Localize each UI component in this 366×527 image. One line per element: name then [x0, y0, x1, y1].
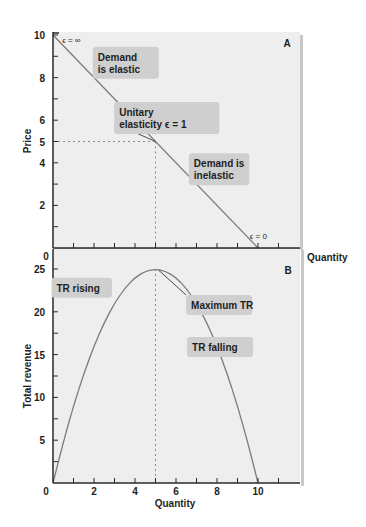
x-tick-label: 6 — [173, 486, 179, 497]
annotation-text: Unitary — [119, 107, 154, 118]
panel-b-letter: B — [284, 265, 291, 276]
chart-canvas: 02468102456810 ϵ = ∞ϵ = 0Demandis elasti… — [0, 0, 366, 527]
y-tick-label: 4 — [39, 158, 45, 169]
y-tick-label: 5 — [39, 435, 45, 446]
elasticity-label: ϵ = ∞ — [62, 36, 81, 45]
x-tick-label: 4 — [132, 486, 138, 497]
y-tick-label: 8 — [39, 73, 45, 84]
x-tick-label: 2 — [91, 486, 97, 497]
elasticity-label: ϵ = 0 — [250, 232, 268, 241]
y-tick-label: 25 — [34, 264, 46, 275]
annotation-text: TR falling — [192, 342, 238, 353]
annotation-text: elasticity ϵ = 1 — [119, 119, 187, 130]
annotation-text: Demand — [98, 52, 137, 63]
y-tick-label: 15 — [34, 350, 46, 361]
x-tick-label: 8 — [214, 486, 220, 497]
y-tick-label: 6 — [39, 115, 45, 126]
panel-a-background — [53, 32, 300, 248]
annotation-text: Maximum TR — [191, 300, 254, 311]
annotation-text: inelastic — [194, 170, 234, 181]
panel-a-letter: A — [283, 38, 290, 49]
panel-b-y-axis-title: Total revenue — [22, 343, 33, 408]
x-tick-label: 0 — [43, 486, 49, 497]
y-tick-label: 2 — [39, 200, 45, 211]
y-tick-label: 10 — [34, 392, 46, 403]
x-tick-label: 10 — [252, 486, 264, 497]
x-tick-label: 0 — [43, 251, 49, 262]
panel-b-shadow — [301, 250, 304, 486]
annotation-text: Demand is — [194, 158, 245, 169]
y-tick-label: 5 — [39, 137, 45, 148]
panel-a-x-axis-title: Quantity — [307, 252, 348, 263]
y-tick-label: 10 — [34, 30, 46, 41]
panel-a-y-axis-title: Price — [22, 128, 33, 153]
panel-b-total-revenue: 0246810510152025 TR risingMaximum TRTR f… — [22, 249, 304, 509]
panel-b-x-axis-title: Quantity — [155, 498, 196, 509]
y-tick-label: 20 — [34, 307, 46, 318]
demand-and-total-revenue-figure: 02468102456810 ϵ = ∞ϵ = 0Demandis elasti… — [0, 0, 366, 527]
annotation-text: is elastic — [98, 64, 141, 75]
annotation-text: TR rising — [57, 283, 100, 294]
panel-a-price-elasticity: 02468102456810 ϵ = ∞ϵ = 0Demandis elasti… — [22, 30, 348, 263]
